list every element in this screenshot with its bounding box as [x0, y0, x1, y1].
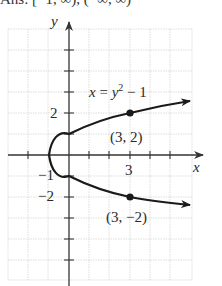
point-label-lower: (3, −2): [106, 209, 147, 226]
tick-label-y-2: 2: [50, 105, 58, 121]
parabola-upper-branch: [49, 101, 190, 155]
tick-label-y-neg2: −2: [38, 188, 54, 204]
x-axis-label: x: [192, 159, 200, 175]
equation-label: x = y2 − 1: [88, 82, 147, 100]
y-axis-label: y: [49, 13, 58, 29]
point-label-upper: (3, 2): [110, 129, 143, 146]
parabola-chart: y x x = y2 − 1 2 −1 −2 3 (3, 2) (3, −2): [0, 0, 222, 286]
tick-label-x-3: 3: [125, 162, 133, 178]
point-3-2: [126, 109, 133, 116]
point-3-neg2: [126, 193, 133, 200]
tick-label-y-neg1: −1: [38, 167, 54, 183]
